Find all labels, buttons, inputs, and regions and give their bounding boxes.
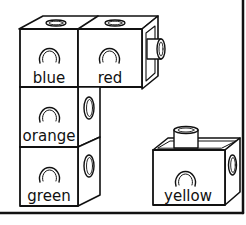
cube-yellow: yellow: [153, 127, 240, 206]
cube-label-blue: blue: [33, 69, 65, 87]
cube-orange: orange: [20, 87, 78, 147]
cube-label-green: green: [27, 187, 70, 205]
cube-blue: blue: [20, 29, 78, 87]
cube-label-yellow: yellow: [164, 187, 212, 205]
cube-label-red: red: [98, 69, 123, 87]
left-column-side: [78, 87, 100, 206]
red-cube-side: [142, 16, 165, 89]
worksheet-panel: blue red orange: [0, 0, 246, 225]
cube-red: red: [78, 29, 142, 87]
cube-label-orange: orange: [23, 127, 76, 145]
yellow-top-peg-icon: [174, 127, 198, 149]
cubes-diagram: blue red orange: [0, 0, 246, 225]
top-row-top-face: [19, 16, 158, 29]
cube-green: green: [20, 147, 78, 206]
